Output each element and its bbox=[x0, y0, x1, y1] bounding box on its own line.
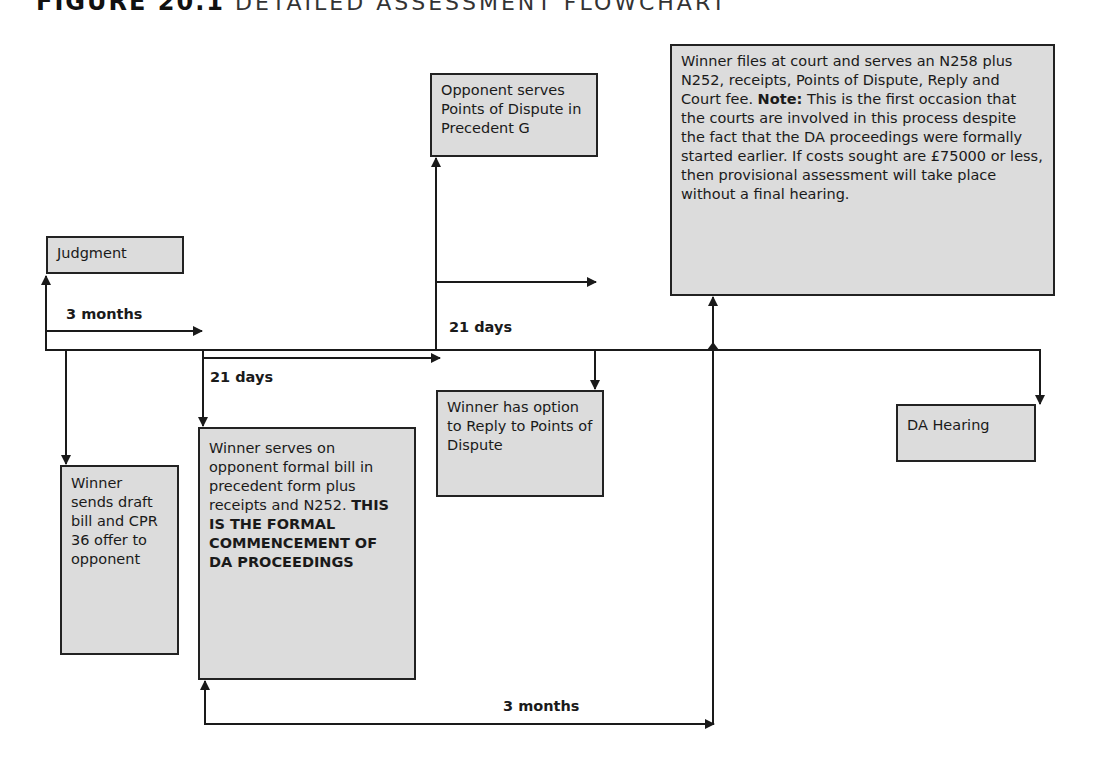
court-filing-box: Winner files at court and serves an N258… bbox=[670, 44, 1055, 296]
label-twenty-one-days-right: 21 days bbox=[449, 319, 512, 335]
draft-bill-box: Winner sends draft bill and CPR 36 offer… bbox=[60, 465, 179, 655]
draft-bill-text: Winner sends draft bill and CPR 36 offer… bbox=[71, 475, 158, 567]
points-of-dispute-text: Opponent serves Points of Dispute in Pre… bbox=[441, 82, 581, 136]
court-filing-note-text: This is the first occasion that the cour… bbox=[681, 91, 1043, 202]
points-of-dispute-box: Opponent serves Points of Dispute in Pre… bbox=[430, 73, 598, 157]
label-three-months-top: 3 months bbox=[66, 306, 142, 322]
judgment-text: Judgment bbox=[57, 245, 127, 261]
reply-option-text: Winner has option to Reply to Points of … bbox=[447, 399, 592, 453]
formal-bill-box: Winner serves on opponent formal bill in… bbox=[198, 427, 416, 680]
reply-option-box: Winner has option to Reply to Points of … bbox=[436, 390, 604, 497]
da-hearing-text: DA Hearing bbox=[907, 417, 990, 433]
judgment-box: Judgment bbox=[46, 236, 184, 274]
court-filing-note-label: Note: bbox=[758, 91, 803, 107]
formal-bill-text: Winner serves on opponent formal bill in… bbox=[209, 440, 373, 513]
label-three-months-bottom: 3 months bbox=[503, 698, 579, 714]
label-twenty-one-days-left: 21 days bbox=[210, 369, 273, 385]
da-hearing-box: DA Hearing bbox=[896, 404, 1036, 462]
